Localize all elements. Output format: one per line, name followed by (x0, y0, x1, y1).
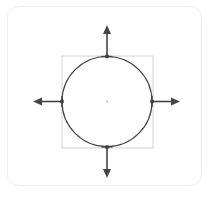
arrow-left-head-icon (33, 98, 42, 106)
handle-top[interactable] (105, 55, 108, 58)
arrow-down-head-icon (103, 169, 111, 178)
handle-right[interactable] (150, 100, 153, 103)
arrow-right[interactable] (152, 98, 180, 106)
arrow-left[interactable] (33, 98, 62, 106)
shape-transform-diagram (0, 0, 210, 208)
arrow-up-head-icon (103, 25, 111, 34)
handle-left[interactable] (60, 100, 63, 103)
canvas-root (0, 0, 210, 208)
handle-bottom[interactable] (105, 145, 108, 148)
arrow-down[interactable] (103, 147, 111, 178)
arrow-up[interactable] (103, 25, 111, 56)
arrow-right-head-icon (171, 98, 180, 106)
shape-center-point (106, 100, 108, 102)
